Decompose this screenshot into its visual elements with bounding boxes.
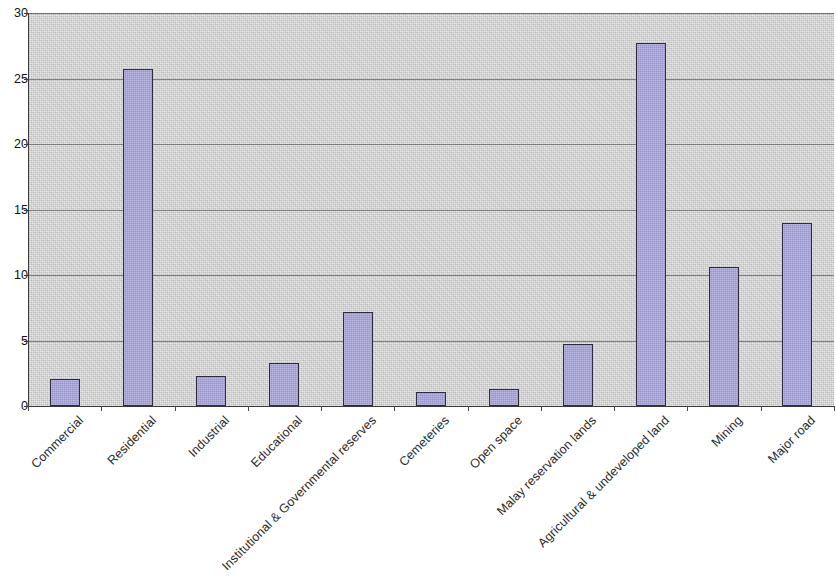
x-label-educational: Educational	[249, 414, 305, 470]
x-label-open-space: Open space	[468, 414, 526, 472]
x-label-industrial: Industrial	[187, 414, 233, 460]
y-tick-mark-20	[24, 144, 28, 145]
bar-chart: 051015202530 CommercialResidentialIndust…	[0, 0, 836, 583]
x-label-major-road: Major road	[766, 414, 818, 466]
x-label-mining: Mining	[710, 414, 746, 450]
x-label-cemeteries: Cemeteries	[397, 414, 452, 469]
bar-open-space	[489, 389, 519, 406]
x-label-agricultural-undeveloped-land: Agricultural & undeveloped land	[536, 414, 672, 550]
bar-major-road	[782, 223, 812, 406]
bar-industrial	[196, 376, 226, 406]
x-axis-tick-labels: CommercialResidentialIndustrialEducation…	[0, 406, 836, 583]
bar-institutional-governmental-reserves	[343, 312, 373, 406]
y-axis-line	[28, 13, 29, 407]
bar-residential	[123, 69, 153, 406]
bar-commercial	[50, 379, 80, 407]
x-label-commercial: Commercial	[29, 414, 86, 471]
bars-layer	[28, 13, 834, 406]
y-tick-mark-5	[24, 341, 28, 342]
y-tick-mark-30	[24, 13, 28, 14]
bar-malay-reservation-lands	[563, 344, 593, 406]
x-label-residential: Residential	[105, 414, 159, 468]
bar-cemeteries	[416, 392, 446, 406]
bar-mining	[709, 267, 739, 406]
y-axis-tick-labels: 051015202530	[0, 0, 28, 420]
y-tick-mark-25	[24, 79, 28, 80]
y-tick-mark-10	[24, 275, 28, 276]
x-label-institutional-governmental-reserves: Institutional & Governmental reserves	[220, 414, 379, 573]
bar-educational	[269, 363, 299, 406]
y-tick-mark-15	[24, 210, 28, 211]
bar-agricultural-undeveloped-land	[636, 43, 666, 406]
